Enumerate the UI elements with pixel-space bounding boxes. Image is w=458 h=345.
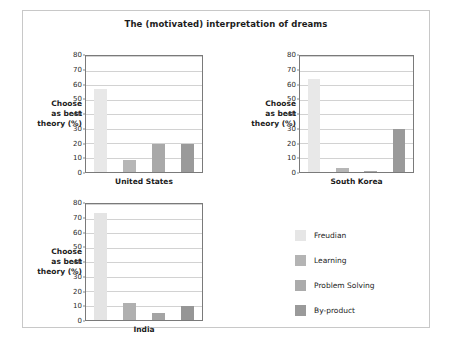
- bar-by-product: [181, 144, 194, 172]
- y-tick-label: 70: [287, 66, 296, 74]
- y-tick-label: 40: [73, 110, 82, 118]
- y-tick-label: 30: [287, 125, 296, 133]
- y-tick-label: 80: [73, 199, 82, 207]
- bar-problem-solving: [152, 313, 165, 320]
- x-axis-label-india: India: [85, 325, 203, 334]
- y-tick-label: 30: [73, 273, 82, 281]
- bars-india: [86, 204, 202, 320]
- legend-label: Freudian: [314, 231, 346, 240]
- bar-learning: [123, 303, 136, 320]
- y-tick-label: 60: [287, 81, 296, 89]
- legend-item: By-product: [295, 298, 425, 323]
- legend-item: Learning: [295, 248, 425, 273]
- y-tick-label: 0: [78, 317, 82, 325]
- panel-south-korea: Choose as best theory (%) 80706050403020…: [299, 55, 414, 173]
- panel-india: Choose as best theory (%) 80706050403020…: [85, 203, 203, 321]
- bar-learning: [123, 160, 136, 172]
- x-axis-label-united-states: United States: [85, 177, 203, 186]
- plot-area-united-states: [85, 55, 203, 173]
- legend-item: Problem Solving: [295, 273, 425, 298]
- legend-swatch-icon: [295, 230, 306, 241]
- bar-problem-solving: [364, 171, 376, 172]
- bar-problem-solving: [152, 144, 165, 172]
- bar-freudian: [94, 213, 107, 320]
- y-tick-label: 10: [73, 154, 82, 162]
- y-tick-label: 70: [73, 66, 82, 74]
- bar-by-product: [181, 306, 194, 321]
- legend-item: Freudian: [295, 223, 425, 248]
- plot-area-india: [85, 203, 203, 321]
- chart-title: The (motivated) interpretation of dreams: [23, 19, 429, 29]
- figure-frame: The (motivated) interpretation of dreams…: [22, 10, 430, 328]
- bar-freudian: [94, 89, 107, 172]
- x-axis-label-south-korea: South Korea: [299, 177, 414, 186]
- y-tick-label: 50: [73, 95, 82, 103]
- y-tick-label: 40: [287, 110, 296, 118]
- legend-swatch-icon: [295, 255, 306, 266]
- y-tick-label: 60: [73, 81, 82, 89]
- y-tick-label: 60: [73, 229, 82, 237]
- plot-area-south-korea: [299, 55, 414, 173]
- y-tick-label: 10: [287, 154, 296, 162]
- y-axis-ticks-india: 80706050403020100: [69, 203, 85, 321]
- y-tick-label: 50: [73, 243, 82, 251]
- bars-united-states: [86, 56, 202, 172]
- legend-label: Problem Solving: [314, 281, 375, 290]
- y-tick-label: 0: [292, 169, 296, 177]
- y-tick-label: 20: [287, 140, 296, 148]
- y-tick-label: 0: [78, 169, 82, 177]
- y-tick-label: 10: [73, 302, 82, 310]
- y-tick-label: 30: [73, 125, 82, 133]
- y-tick-label: 20: [73, 288, 82, 296]
- y-tick-label: 40: [73, 258, 82, 266]
- bars-south-korea: [300, 56, 413, 172]
- legend-swatch-icon: [295, 280, 306, 291]
- legend-label: Learning: [314, 256, 347, 265]
- y-tick-label: 70: [73, 214, 82, 222]
- y-tick-label: 80: [73, 51, 82, 59]
- y-tick-label: 20: [73, 140, 82, 148]
- y-axis-ticks-south-korea: 80706050403020100: [283, 55, 299, 173]
- legend-label: By-product: [314, 306, 355, 315]
- bar-freudian: [308, 79, 320, 172]
- y-axis-ticks-united-states: 80706050403020100: [69, 55, 85, 173]
- legend: FreudianLearningProblem SolvingBy-produc…: [295, 223, 425, 323]
- legend-swatch-icon: [295, 305, 306, 316]
- panel-united-states: Choose as best theory (%) 80706050403020…: [85, 55, 203, 173]
- bar-by-product: [393, 129, 405, 173]
- bar-learning: [336, 168, 348, 172]
- y-tick-label: 80: [287, 51, 296, 59]
- y-tick-label: 50: [287, 95, 296, 103]
